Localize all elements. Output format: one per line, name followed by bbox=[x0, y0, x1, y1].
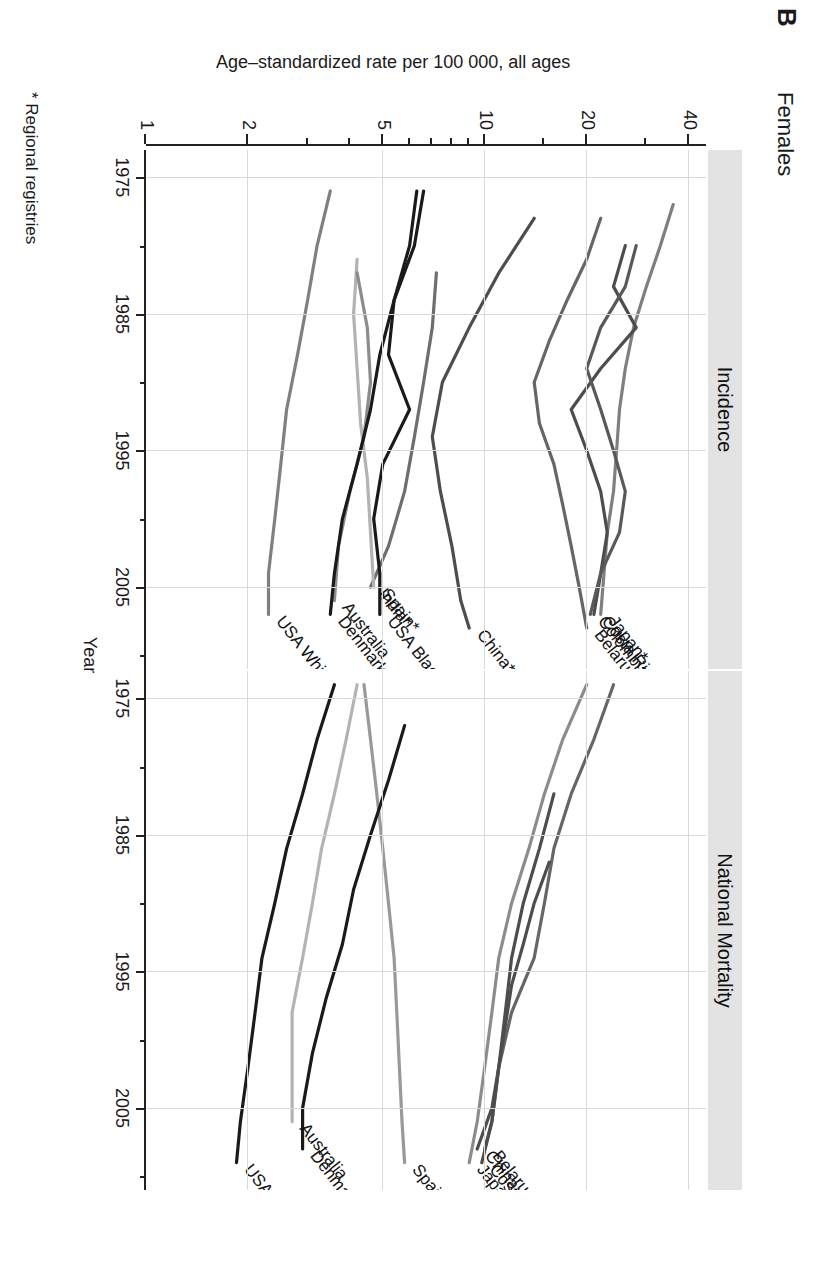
gridline-h-10 bbox=[484, 671, 485, 1190]
x-axis-spine bbox=[144, 150, 146, 1190]
series-line-australia bbox=[292, 685, 357, 1122]
facet-strip-incidence: Incidence bbox=[708, 150, 742, 669]
x-tick-mortality-1975 bbox=[136, 698, 146, 700]
gridline-h-2 bbox=[247, 150, 248, 669]
rotated-figure-wrapper: B Females Incidence National Mortality J… bbox=[0, 0, 816, 1284]
y-axis-title: Age–standardized rate per 100 000, all a… bbox=[216, 52, 570, 73]
x-tick-label-incidence-1985: 1985 bbox=[111, 294, 132, 334]
series-line-belarus bbox=[485, 685, 614, 1149]
gridline-h-5 bbox=[382, 671, 383, 1190]
x-tick-mortality-2000 bbox=[140, 1040, 146, 1042]
x-tick-2005 bbox=[136, 587, 146, 589]
y-tick-9 bbox=[467, 138, 469, 144]
y-tick-15 bbox=[542, 138, 544, 144]
gridline-h-40 bbox=[688, 671, 689, 1190]
x-tick-label-mortality-1985: 1985 bbox=[111, 815, 132, 855]
y-tick-label-2: 2 bbox=[238, 92, 259, 130]
x-tick-2010 bbox=[140, 655, 146, 657]
x-tick-label-mortality-2005: 2005 bbox=[111, 1088, 132, 1128]
x-axis-title: Year bbox=[79, 637, 100, 673]
series-line-usa bbox=[237, 685, 335, 1163]
series-layer-mortality: BelarusChinaCosta RicaJapanSpainDenmarkA… bbox=[146, 671, 706, 1190]
x-tick-1995 bbox=[136, 450, 146, 452]
x-tick-label-mortality-1975: 1975 bbox=[111, 678, 132, 718]
gridline-v-1975 bbox=[146, 177, 706, 178]
x-tick-1975 bbox=[136, 177, 146, 179]
series-line-costa-rica bbox=[571, 246, 636, 615]
gridline-h-20 bbox=[586, 150, 587, 669]
x-tick-1980 bbox=[140, 246, 146, 248]
plot-area: Incidence National Mortality Japan*Costa… bbox=[82, 150, 742, 1190]
facet-label-mortality: National Mortality bbox=[714, 853, 737, 1008]
gridline-v-1995 bbox=[146, 971, 706, 972]
facet-mortality: BelarusChinaCosta RicaJapanSpainDenmarkA… bbox=[146, 671, 706, 1190]
series-line-belarus bbox=[534, 218, 601, 628]
gridline-v-1985 bbox=[146, 835, 706, 836]
y-tick-8 bbox=[450, 138, 452, 144]
y-tick-1 bbox=[144, 134, 146, 144]
x-tick-mortality-1985 bbox=[136, 835, 146, 837]
y-tick-3 bbox=[306, 138, 308, 144]
series-line-spain bbox=[364, 685, 405, 1163]
x-tick-mortality-1980 bbox=[140, 767, 146, 769]
x-tick-label-incidence-1975: 1975 bbox=[111, 157, 132, 197]
x-tick-mortality-2005 bbox=[136, 1108, 146, 1110]
y-tick-label-5: 5 bbox=[373, 92, 394, 130]
x-tick-1985 bbox=[136, 314, 146, 316]
y-tick-6 bbox=[408, 138, 410, 144]
series-label-usa-white: USA White* bbox=[272, 612, 342, 669]
gridline-h-20 bbox=[586, 671, 587, 1190]
series-line-denmark bbox=[303, 726, 405, 1149]
y-tick-label-10: 10 bbox=[475, 92, 496, 130]
x-tick-mortality-2010 bbox=[140, 1176, 146, 1178]
gridline-v-1985 bbox=[146, 314, 706, 315]
y-tick-label-20: 20 bbox=[577, 92, 598, 130]
series-layer-incidence: Japan*Costa RicaColombia*BelarusChina*In… bbox=[146, 150, 706, 669]
y-tick-40 bbox=[687, 134, 689, 144]
facet-label-incidence: Incidence bbox=[714, 367, 737, 453]
facet-incidence: Japan*Costa RicaColombia*BelarusChina*In… bbox=[146, 150, 706, 669]
footnote-regional-registries: * Regional registries bbox=[21, 92, 41, 244]
x-tick-mortality-1990 bbox=[140, 903, 146, 905]
y-tick-2 bbox=[246, 134, 248, 144]
series-line-denmark bbox=[330, 191, 417, 614]
series-label-spain: Spain bbox=[408, 1160, 450, 1190]
gridline-v-1995 bbox=[146, 450, 706, 451]
y-tick-30 bbox=[644, 138, 646, 144]
y-tick-4 bbox=[348, 138, 350, 144]
series-line-india bbox=[371, 273, 437, 587]
y-tick-label-1: 1 bbox=[136, 92, 157, 130]
x-tick-mortality-1995 bbox=[136, 971, 146, 973]
x-tick-label-incidence-1995: 1995 bbox=[111, 430, 132, 470]
panel-letter: B bbox=[771, 8, 802, 27]
x-tick-2000 bbox=[140, 519, 146, 521]
series-label-china: China* bbox=[473, 626, 520, 669]
gridline-h-5 bbox=[382, 150, 383, 669]
y-tick-20 bbox=[585, 134, 587, 144]
series-line-colombia bbox=[587, 246, 637, 615]
figure-title: Females bbox=[772, 92, 798, 176]
y-tick-7 bbox=[430, 138, 432, 144]
gridline-v-2005 bbox=[146, 1108, 706, 1109]
x-tick-label-mortality-1995: 1995 bbox=[111, 951, 132, 991]
series-label-usa: USA bbox=[240, 1160, 277, 1190]
facet-strip-mortality: National Mortality bbox=[708, 671, 742, 1190]
gridline-h-2 bbox=[247, 671, 248, 1190]
gridline-v-2005 bbox=[146, 587, 706, 588]
y-tick-5 bbox=[381, 134, 383, 144]
y-axis-spine bbox=[146, 144, 706, 146]
series-line-usa-white bbox=[269, 191, 331, 614]
gridline-h-40 bbox=[688, 150, 689, 669]
gridline-h-10 bbox=[484, 150, 485, 669]
y-tick-10 bbox=[483, 134, 485, 144]
gridline-v-1975 bbox=[146, 698, 706, 699]
figure-canvas: B Females Incidence National Mortality J… bbox=[0, 0, 816, 1284]
y-tick-label-40: 40 bbox=[679, 92, 700, 130]
x-tick-1990 bbox=[140, 382, 146, 384]
x-tick-label-incidence-2005: 2005 bbox=[111, 567, 132, 607]
